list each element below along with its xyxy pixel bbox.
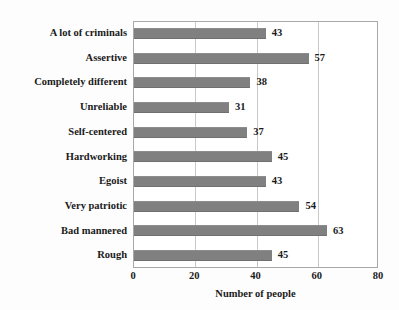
category-label: Very patriotic [0,201,127,212]
category-label: A lot of criminals [0,28,127,39]
bar-row: Self-centered37 [0,120,399,145]
bar [134,225,327,236]
x-tick-label: 20 [189,271,200,282]
bar-value-label: 45 [278,152,289,163]
category-label: Hardworking [0,152,127,163]
bar [134,151,272,162]
bar-container: 43 [134,169,282,194]
bar-value-label: 57 [315,53,326,64]
category-label: Self-centered [0,127,127,138]
x-tick-label: 40 [250,271,261,282]
bar-row: Completely different38 [0,70,399,95]
bar-value-label: 63 [333,226,344,237]
x-tick-label: 60 [312,271,323,282]
bar-container: 63 [134,219,343,244]
bar-chart: A lot of criminals43Assertive57Completel… [0,0,399,310]
bar-container: 45 [134,145,288,170]
category-label: Rough [0,250,127,261]
bar-row: Unreliable31 [0,95,399,120]
bar-value-label: 45 [278,250,289,261]
bar-rows: A lot of criminals43Assertive57Completel… [0,21,399,268]
bar-row: Bad mannered63 [0,219,399,244]
category-label: Completely different [0,77,127,88]
bar-value-label: 43 [272,176,283,187]
x-tick-label: 0 [130,271,135,282]
bar-container: 38 [134,70,267,95]
bar [134,102,229,113]
bar-container: 54 [134,194,316,219]
bar-row: A lot of criminals43 [0,21,399,46]
bar [134,127,247,138]
category-label: Assertive [0,53,127,64]
bar-value-label: 54 [305,201,316,212]
bar-value-label: 43 [272,28,283,39]
bar [134,176,266,187]
bar-value-label: 37 [253,127,264,138]
x-axis-ticks: 020406080 [0,271,399,287]
bar-row: Very patriotic54 [0,194,399,219]
bar-row: Hardworking45 [0,145,399,170]
bar [134,28,266,39]
category-label: Bad mannered [0,226,127,237]
x-tick-label: 80 [373,271,384,282]
bar-value-label: 38 [256,77,267,88]
bar-container: 31 [134,95,245,120]
bar [134,250,272,261]
bar-container: 57 [134,46,325,71]
category-label: Egoist [0,176,127,187]
category-label: Unreliable [0,102,127,113]
bar-row: Assertive57 [0,46,399,71]
bar-container: 43 [134,21,282,46]
bar-row: Egoist43 [0,169,399,194]
bar-container: 37 [134,120,264,145]
bar-row: Rough45 [0,243,399,268]
bar-container: 45 [134,243,288,268]
bar [134,77,250,88]
x-axis-title: Number of people [133,289,378,300]
bar [134,201,299,212]
bar [134,53,309,64]
bar-value-label: 31 [235,102,246,113]
